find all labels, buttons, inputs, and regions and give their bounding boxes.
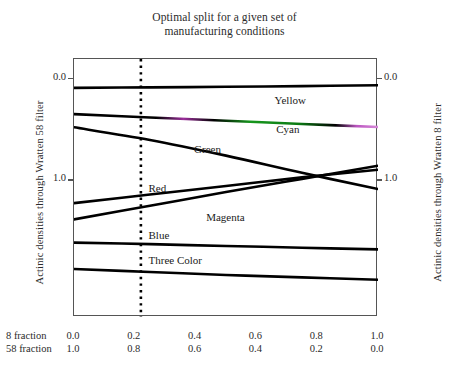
y-tick-label-left-1: 1.0 — [36, 172, 66, 183]
curve-label-cyan: Cyan — [276, 123, 299, 135]
y-tick-mark-right-0 — [377, 78, 382, 79]
curve-label-red: Red — [149, 182, 167, 194]
chart-title-line-2: manufacturing conditions — [0, 24, 449, 38]
plot-canvas — [74, 59, 378, 317]
y-tick-label-right-0: 0.0 — [384, 71, 414, 82]
curve-label-blue: Blue — [149, 229, 170, 241]
chart-title: Optimal split for a given set of manufac… — [0, 10, 449, 38]
x-tick-label-r0-2: 0.4 — [175, 330, 215, 341]
x-tick-label-r0-3: 0.6 — [235, 330, 275, 341]
x-tick-label-r0-5: 1.0 — [357, 330, 397, 341]
y-tick-mark-left-0 — [68, 78, 73, 79]
y-tick-mark-right-1 — [377, 179, 382, 180]
y-tick-label-left-0: 0.0 — [36, 71, 66, 82]
curve-label-yellow: Yellow — [275, 94, 306, 106]
x-tick-label-r1-0: 1.0 — [53, 343, 93, 354]
y-tick-mark-left-1 — [68, 179, 73, 180]
x-tick-label-r1-1: 0.8 — [114, 343, 154, 354]
x-axis-row-1: 58 fraction1.00.80.60.40.20.0 — [0, 343, 449, 356]
x-axis-label-table: 8 fraction0.00.20.40.60.81.058 fraction1… — [0, 330, 449, 356]
plot-area: YellowCyanGreenRedMagentaBlueThree Color — [73, 58, 377, 316]
x-tick-label-r1-4: 0.2 — [296, 343, 336, 354]
x-tick-label-r1-2: 0.6 — [175, 343, 215, 354]
curve-label-green: Green — [194, 143, 221, 155]
curve-blue — [74, 243, 378, 250]
x-tick-label-r0-0: 0.0 — [53, 330, 93, 341]
chart-figure: Optimal split for a given set of manufac… — [0, 0, 449, 371]
y-tick-label-right-1: 1.0 — [384, 172, 414, 183]
curve-label-magenta: Magenta — [206, 211, 244, 223]
y-axis-title-left: Actinic densities through Wratten 58 fil… — [34, 68, 45, 318]
curve-three-color — [74, 269, 378, 280]
x-tick-label-r1-5: 0.0 — [357, 343, 397, 354]
x-axis-row-label-0: 8 fraction — [6, 330, 47, 341]
curve-green — [74, 127, 378, 189]
x-tick-label-r0-4: 0.8 — [296, 330, 336, 341]
x-axis-row-label-1: 58 fraction — [6, 343, 52, 354]
x-tick-label-r0-1: 0.2 — [114, 330, 154, 341]
curve-label-three-color: Three Color — [149, 254, 202, 266]
y-axis-title-right: Actinic densities through Wratten 8 filt… — [432, 68, 443, 318]
curve-paths — [74, 85, 378, 279]
x-axis-row-0: 8 fraction0.00.20.40.60.81.0 — [0, 330, 449, 343]
chart-title-line-1: Optimal split for a given set of — [0, 10, 449, 24]
curve-cyan — [74, 114, 378, 127]
x-tick-label-r1-3: 0.4 — [235, 343, 275, 354]
curve-yellow — [74, 85, 378, 88]
